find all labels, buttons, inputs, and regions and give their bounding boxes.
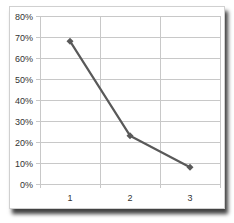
y-tick-label: 20% [15, 138, 33, 148]
x-tick-label: 1 [67, 193, 72, 203]
y-tick-label: 40% [15, 96, 33, 106]
y-tick-label: 30% [15, 117, 33, 127]
gridlines [36, 16, 221, 188]
y-tick-label: 80% [15, 12, 33, 22]
x-tick-label: 2 [127, 193, 132, 203]
y-tick-label: 70% [15, 33, 33, 43]
line-chart: 0%10%20%30%40%50%60%70%80% 123 [0, 0, 234, 223]
x-tick-label: 3 [187, 193, 192, 203]
data-series [67, 38, 194, 171]
series-line [70, 41, 190, 167]
y-axis-labels: 0%10%20%30%40%50%60%70%80% [15, 12, 33, 190]
y-tick-label: 0% [20, 180, 33, 190]
y-tick-label: 10% [15, 159, 33, 169]
y-tick-label: 60% [15, 54, 33, 64]
y-tick-label: 50% [15, 75, 33, 85]
x-axis-labels: 123 [67, 193, 192, 203]
